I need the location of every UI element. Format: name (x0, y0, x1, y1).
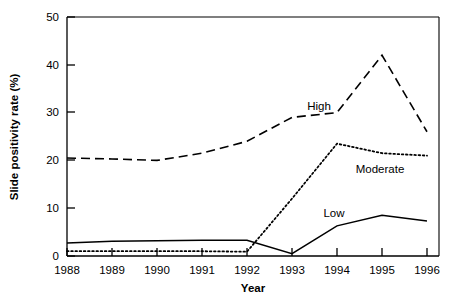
x-tick-labels: 1988 1989 1990 1991 1992 1993 1994 1995 … (54, 264, 440, 276)
x-tick-label-1996: 1996 (414, 264, 440, 276)
x-tick-label-1990: 1990 (144, 264, 170, 276)
y-tick-label-0: 0 (53, 250, 59, 262)
series-line-low (67, 215, 427, 253)
series-annotations: High Moderate Low (307, 100, 404, 219)
y-tick-label-30: 30 (46, 106, 59, 118)
chart-container: 0 10 20 30 40 50 1988 1989 1990 1991 199… (0, 0, 449, 305)
series-line-high (67, 55, 427, 160)
series-label-low: Low (323, 207, 345, 219)
y-tick-label-10: 10 (46, 202, 59, 214)
x-tick-label-1994: 1994 (324, 264, 350, 276)
x-tick-label-1995: 1995 (369, 264, 395, 276)
series-label-moderate: Moderate (356, 163, 405, 175)
x-tick-label-1988: 1988 (54, 264, 80, 276)
x-tick-label-1992: 1992 (234, 264, 260, 276)
x-tick-label-1993: 1993 (279, 264, 305, 276)
y-tick-label-50: 50 (46, 11, 59, 23)
series-line-moderate (67, 144, 427, 252)
data-series-group (67, 55, 427, 253)
line-chart-svg: 0 10 20 30 40 50 1988 1989 1990 1991 199… (0, 0, 449, 305)
y-tick-label-40: 40 (46, 59, 59, 71)
y-tick-label-20: 20 (46, 154, 59, 166)
y-tick-labels: 0 10 20 30 40 50 (46, 11, 59, 262)
y-axis-title: Slide positivity rate (%) (8, 74, 20, 201)
x-tick-label-1991: 1991 (189, 264, 215, 276)
x-axis-title: Year (241, 282, 266, 294)
series-label-high: High (307, 100, 331, 112)
y-tick-marks (67, 17, 75, 256)
plot-frame (67, 17, 439, 256)
x-tick-label-1989: 1989 (99, 264, 125, 276)
